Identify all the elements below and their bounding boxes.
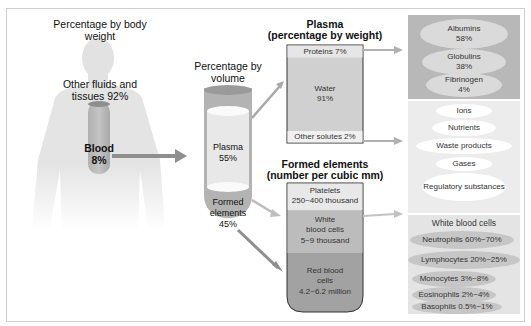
other-solutes-panel: Ions Nutrients Waste products Gases Regu…	[408, 101, 520, 213]
formed-subtitle: (number per cubic mm)	[262, 169, 388, 181]
wbc-label: White blood cells	[305, 215, 345, 235]
formed-label: Formed elements	[205, 197, 251, 219]
basophils-item: Basophils 0.5%~1%	[412, 300, 502, 314]
plasma-proteins-panel: Albumins58% Globulins38% Fibrinogen4%	[408, 15, 520, 99]
lymphocytes-item: Lymphocytes 20%~25%	[408, 251, 520, 269]
volume-title: Percentage by volume	[188, 60, 268, 84]
albumins-item: Albumins58%	[420, 19, 508, 49]
blood-label: Blood	[82, 142, 116, 154]
body-weight-title: Percentage by body weight	[50, 18, 150, 42]
wbc-value: 5~9 thousand	[287, 236, 363, 246]
proteins-segment: Proteins 7%	[287, 47, 363, 57]
plasma-label: Plasma	[205, 142, 251, 153]
white-blood-cells-panel: White blood cells Neutrophils 60%~70% Ly…	[408, 215, 520, 314]
water-value: 91%	[287, 94, 363, 104]
neutrophils-item: Neutrophils 60%~70%	[410, 231, 514, 249]
ions-item: Ions	[436, 104, 492, 118]
water-label: Water	[287, 84, 363, 94]
plasma-subtitle: (percentage by weight)	[265, 29, 385, 41]
formed-value: 45%	[205, 219, 251, 230]
wbc-panel-title: White blood cells	[408, 218, 520, 228]
other-solutes-segment: Other solutes 2%	[287, 132, 363, 142]
nutrients-item: Nutrients	[432, 120, 496, 136]
monocytes-item: Monocytes 3%~8%	[412, 271, 496, 287]
platelets-value: 250~400 thousand	[287, 196, 363, 206]
platelets-label: Platelets	[287, 186, 363, 196]
gases-item: Gases	[436, 157, 492, 171]
regulatory-substances-item: Regulatory substances	[422, 173, 506, 201]
rbc-value: 4.2~6.2 million	[287, 287, 363, 297]
plasma-value: 55%	[205, 153, 251, 164]
other-fluids-label: Other fluids and tissues 92%	[52, 78, 148, 102]
blood-value: 8%	[82, 154, 116, 166]
waste-products-item: Waste products	[416, 138, 512, 154]
fibrinogen-item: Fibrinogen4%	[426, 73, 502, 97]
rbc-label: Red blood cells	[305, 266, 345, 286]
globulins-item: Globulins38%	[422, 49, 506, 75]
